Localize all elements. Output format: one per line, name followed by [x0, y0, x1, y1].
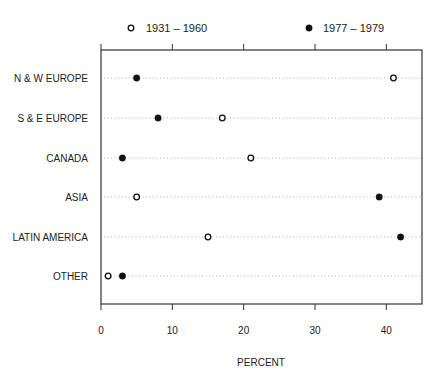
- legend-label: 1977 – 1979: [323, 22, 384, 34]
- data-points: [105, 75, 403, 279]
- legend-open-circle-icon: [128, 25, 134, 31]
- gridlines: [104, 78, 421, 276]
- filled-circle-marker: [397, 234, 403, 240]
- x-axis-label: PERCENT: [237, 357, 285, 368]
- dot-plot-chart: 1931 – 19601977 – 1979 010203040 N & W E…: [0, 0, 443, 385]
- open-circle-marker: [219, 115, 225, 121]
- category-label: OTHER: [53, 271, 88, 282]
- open-circle-marker: [391, 75, 397, 81]
- filled-circle-marker: [119, 273, 125, 279]
- open-circle-marker: [134, 194, 140, 200]
- legend-filled-circle-icon: [306, 25, 312, 31]
- open-circle-marker: [205, 234, 211, 240]
- tick-label: 30: [309, 325, 321, 336]
- open-circle-marker: [105, 273, 111, 279]
- open-circle-marker: [248, 155, 254, 161]
- category-label: CANADA: [46, 153, 88, 164]
- plot-frame: [101, 50, 422, 304]
- category-label: S & E EUROPE: [17, 113, 88, 124]
- tick-label: 0: [98, 325, 104, 336]
- category-label: LATIN AMERICA: [13, 232, 89, 243]
- filled-circle-marker: [376, 194, 382, 200]
- tick-label: 40: [381, 325, 393, 336]
- axis-ticks: 010203040: [98, 44, 392, 336]
- category-label: N & W EUROPE: [14, 73, 88, 84]
- tick-label: 10: [167, 325, 179, 336]
- legend: 1931 – 19601977 – 1979: [128, 22, 384, 34]
- filled-circle-marker: [155, 115, 161, 121]
- legend-label: 1931 – 1960: [146, 22, 207, 34]
- category-label: ASIA: [65, 192, 88, 203]
- category-labels: N & W EUROPES & E EUROPECANADAASIALATIN …: [13, 73, 89, 282]
- filled-circle-marker: [133, 75, 139, 81]
- filled-circle-marker: [119, 155, 125, 161]
- tick-label: 20: [238, 325, 250, 336]
